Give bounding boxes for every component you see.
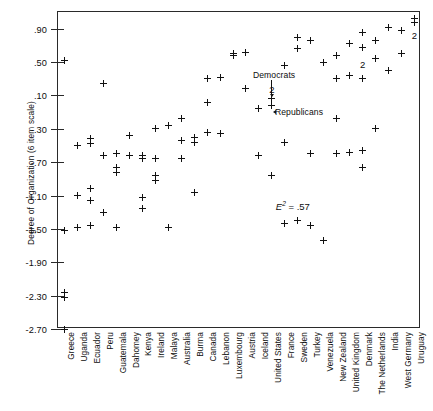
x-axis-category-label: Iceland	[261, 332, 269, 359]
data-point	[152, 155, 159, 162]
y-axis-tick-inner	[58, 162, 64, 163]
data-point	[152, 125, 159, 132]
x-axis-category-label: Sweden	[300, 332, 308, 362]
data-point	[87, 140, 94, 147]
data-point	[126, 152, 133, 159]
data-point	[217, 74, 224, 81]
x-axis-category-label: West Germany	[404, 332, 412, 388]
x-axis-category-label: Uruguay	[417, 332, 425, 364]
data-point	[204, 99, 211, 106]
data-point	[113, 150, 120, 157]
data-point	[359, 164, 366, 171]
y-axis-tick-inner	[58, 29, 64, 30]
x-axis-category-label: United Kingdom	[352, 332, 360, 392]
data-point	[87, 222, 94, 229]
x-axis-category-label: Peru	[106, 332, 114, 350]
data-point	[294, 34, 301, 41]
data-point	[333, 115, 340, 122]
annotation-republicans-arrowhead	[273, 110, 276, 114]
data-point	[87, 197, 94, 204]
data-point	[230, 52, 237, 59]
x-axis-category-label: Ecuador	[93, 332, 101, 363]
data-point	[346, 72, 353, 79]
data-point	[165, 122, 172, 129]
annotation-democrats-arrowhead	[270, 94, 274, 97]
data-point	[359, 29, 366, 36]
y-axis-tick-label: .10	[34, 91, 47, 101]
data-point	[372, 125, 379, 132]
data-point	[346, 149, 353, 156]
data-point	[307, 150, 314, 157]
x-axis-category-label: Greece	[67, 332, 75, 360]
data-point	[113, 224, 120, 231]
data-point	[398, 50, 405, 57]
data-point	[74, 192, 81, 199]
x-axis-category-label: Turkey	[313, 332, 321, 358]
y-axis-tick-label: .90	[34, 25, 47, 35]
data-point	[333, 150, 340, 157]
x-axis-category-label: Lebanon	[222, 332, 230, 365]
data-point	[178, 137, 185, 144]
y-axis-tick: -1.50	[51, 229, 58, 230]
annotation-eta-squared: E2 = .57	[276, 200, 310, 212]
x-axis-category-label: Uganda	[80, 332, 88, 362]
data-point	[255, 105, 262, 112]
data-point	[411, 19, 418, 26]
x-axis-category-label: Austria	[248, 332, 256, 358]
x-axis-category-label: Denmark	[365, 332, 373, 366]
x-axis-category-label: France	[287, 332, 295, 358]
x-axis-category-label: United States	[274, 332, 282, 383]
data-point	[100, 209, 107, 216]
data-point	[61, 227, 68, 234]
data-point	[294, 45, 301, 52]
data-point	[74, 224, 81, 231]
x-axis-category-label: Ireland	[157, 332, 165, 358]
data-point	[320, 59, 327, 66]
y-axis-tick-label: -1.50	[26, 225, 47, 235]
x-axis-category-label: Burma	[196, 332, 204, 357]
data-point	[165, 224, 172, 231]
data-point	[372, 55, 379, 62]
y-axis-tick-label: -2.70	[26, 325, 47, 335]
y-axis-tick: .90	[51, 29, 58, 30]
y-axis-tick-inner	[58, 196, 64, 197]
y-axis-tick-inner	[58, 95, 64, 96]
data-point	[87, 185, 94, 192]
y-axis-tick-label: -.70	[31, 158, 47, 168]
data-point	[307, 222, 314, 229]
x-axis-category-label: Kenya	[144, 332, 152, 356]
y-axis-tick: -.30	[51, 129, 58, 130]
y-axis-tick: -1.90	[51, 262, 58, 263]
data-point	[61, 57, 68, 64]
duplicate-point-marker: 2	[412, 30, 417, 41]
y-axis-tick: .10	[51, 95, 58, 96]
y-axis-tick: -2.30	[51, 296, 58, 297]
data-point	[100, 152, 107, 159]
annotation-democrats: Democrats	[253, 70, 295, 80]
data-point	[242, 85, 249, 92]
data-point	[126, 132, 133, 139]
scatter-plot-figure: Degree of Organization (6 item scale) .9…	[0, 0, 433, 411]
y-axis-tick: -2.70	[51, 329, 58, 330]
x-axis-category-labels: GreeceUgandaEcuadorPeruGuatemalaDahomeyK…	[57, 332, 420, 411]
x-axis-category-label: Canada	[209, 332, 217, 362]
eta-value: = .57	[286, 201, 310, 212]
data-point	[113, 169, 120, 176]
data-point	[281, 62, 288, 69]
data-point	[385, 67, 392, 74]
y-axis-tick: -.70	[51, 162, 58, 163]
data-point	[204, 75, 211, 82]
x-axis-category-label: Dahomey	[132, 332, 140, 368]
y-axis-tick: -1.10	[51, 196, 58, 197]
data-point	[61, 289, 68, 296]
x-axis-category-label: Venezuela	[326, 332, 334, 372]
data-point	[268, 172, 275, 179]
data-point	[255, 152, 262, 159]
data-point	[359, 75, 366, 82]
data-point	[281, 220, 288, 227]
data-point	[294, 217, 301, 224]
y-axis-tick-label: .50	[34, 58, 47, 68]
plot-area: .90.50.10-.30-.70-1.10-1.50-1.90-2.30-2.…	[57, 11, 420, 328]
data-point	[152, 177, 159, 184]
x-axis-category-label: Malaya	[170, 332, 178, 359]
